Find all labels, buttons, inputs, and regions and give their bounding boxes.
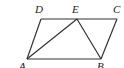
label-a: A [18, 60, 26, 68]
label-d: D [34, 3, 43, 15]
parallelogram-abcd [27, 19, 117, 59]
label-b: B [97, 60, 104, 68]
segment-be [77, 19, 101, 59]
label-e: E [71, 3, 79, 15]
segment-bc [101, 19, 117, 59]
geometry-diagram: D E C A B [0, 0, 124, 68]
label-c: C [113, 3, 121, 15]
